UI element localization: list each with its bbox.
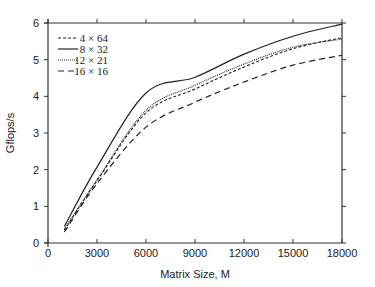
line-chart: 03000600090001200015000180000123456 4 × … [0, 0, 375, 287]
legend-label: 16 × 16 [74, 65, 108, 77]
x-tick-label: 18000 [327, 247, 358, 259]
y-axis-title: Gflops/s [4, 112, 16, 153]
x-tick-label: 6000 [134, 247, 158, 259]
legend: 4 × 648 × 3212 × 2116 × 16 [58, 32, 108, 77]
y-tick-label: 0 [33, 237, 39, 249]
y-tick-label: 2 [33, 164, 39, 176]
x-axis-title: Matrix Size, M [160, 268, 230, 280]
y-tick-label: 5 [33, 54, 39, 66]
y-tick-label: 3 [33, 127, 39, 139]
x-tick-label: 15000 [278, 247, 309, 259]
x-tick-label: 3000 [85, 247, 109, 259]
x-tick-label: 12000 [229, 247, 260, 259]
x-tick-label: 9000 [183, 247, 207, 259]
x-tick-label: 0 [45, 247, 51, 259]
y-tick-label: 4 [33, 90, 39, 102]
y-tick-label: 6 [33, 17, 39, 29]
y-tick-label: 1 [33, 200, 39, 212]
